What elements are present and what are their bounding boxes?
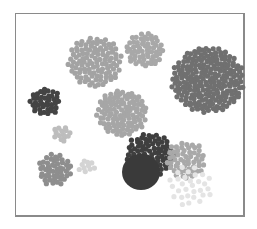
dot bbox=[79, 39, 84, 44]
dot bbox=[165, 160, 170, 165]
dot bbox=[195, 106, 200, 111]
dot bbox=[115, 88, 120, 93]
dot bbox=[93, 84, 98, 89]
dot bbox=[170, 77, 175, 82]
dot bbox=[127, 145, 132, 150]
cluster-center-mid bbox=[94, 88, 148, 137]
dot bbox=[201, 110, 206, 115]
cluster-tiny-pale bbox=[77, 159, 97, 175]
dot bbox=[179, 141, 184, 146]
dot bbox=[100, 82, 105, 87]
dot bbox=[176, 188, 181, 193]
dot bbox=[49, 157, 54, 162]
dot bbox=[159, 43, 164, 48]
dot bbox=[106, 116, 111, 121]
dot bbox=[190, 107, 195, 112]
dot bbox=[111, 41, 116, 46]
dot bbox=[160, 48, 165, 53]
dot bbox=[69, 69, 74, 74]
dot bbox=[61, 138, 66, 143]
dot bbox=[74, 41, 79, 46]
dot bbox=[190, 183, 195, 188]
dot bbox=[179, 97, 184, 102]
dot bbox=[220, 107, 225, 112]
dot bbox=[196, 179, 201, 184]
dot bbox=[197, 199, 202, 204]
dot bbox=[226, 62, 231, 67]
dot bbox=[143, 63, 148, 68]
dot bbox=[207, 192, 212, 197]
dot bbox=[206, 108, 211, 113]
dot bbox=[196, 152, 201, 157]
dot bbox=[171, 194, 176, 199]
dot bbox=[108, 92, 113, 97]
dot bbox=[172, 71, 177, 76]
dot bbox=[53, 110, 58, 115]
dot bbox=[58, 181, 63, 186]
dot bbox=[172, 65, 177, 70]
dot bbox=[129, 91, 134, 96]
dot bbox=[193, 172, 198, 177]
dot bbox=[38, 111, 43, 116]
dot bbox=[223, 50, 228, 55]
dot bbox=[83, 79, 88, 84]
dot bbox=[38, 166, 43, 171]
dot bbox=[200, 192, 205, 197]
dot bbox=[146, 31, 151, 36]
dot bbox=[167, 177, 172, 182]
dot bbox=[88, 36, 93, 41]
dot bbox=[94, 113, 99, 118]
dot bbox=[153, 35, 158, 40]
dot bbox=[120, 90, 125, 95]
dot bbox=[207, 176, 212, 181]
dot bbox=[39, 174, 44, 179]
dot bbox=[102, 93, 107, 98]
dot bbox=[39, 95, 44, 100]
dot-cluster-diagram bbox=[0, 0, 257, 229]
dot bbox=[187, 150, 192, 155]
dot bbox=[32, 108, 37, 113]
dot bbox=[97, 57, 102, 62]
dot bbox=[238, 79, 243, 84]
dot bbox=[205, 186, 210, 191]
dot bbox=[125, 44, 130, 49]
cluster-right-large bbox=[169, 46, 245, 115]
dot bbox=[200, 172, 205, 177]
dot bbox=[174, 94, 179, 99]
dot bbox=[188, 178, 193, 183]
dot bbox=[45, 111, 50, 116]
dot bbox=[113, 46, 118, 51]
dot bbox=[106, 42, 111, 47]
dot bbox=[236, 94, 241, 99]
dot bbox=[42, 87, 47, 92]
dot bbox=[201, 162, 206, 167]
dot bbox=[197, 143, 202, 148]
dot bbox=[130, 99, 135, 104]
dot bbox=[175, 170, 180, 175]
dot bbox=[203, 46, 208, 51]
dot bbox=[143, 105, 148, 110]
dot bbox=[183, 187, 188, 192]
dot bbox=[169, 144, 174, 149]
dot bbox=[44, 155, 49, 160]
dot bbox=[183, 102, 188, 107]
dot bbox=[231, 56, 236, 61]
dot bbox=[231, 61, 236, 66]
dot bbox=[83, 169, 88, 174]
dot bbox=[98, 77, 103, 82]
dot bbox=[92, 166, 97, 171]
dot bbox=[197, 148, 202, 153]
dot bbox=[145, 41, 150, 46]
dot bbox=[67, 130, 72, 135]
dot bbox=[231, 99, 236, 104]
dot bbox=[167, 150, 172, 155]
dot bbox=[82, 159, 87, 164]
dot bbox=[174, 163, 179, 168]
dot bbox=[196, 46, 201, 51]
dot bbox=[227, 54, 232, 59]
dot bbox=[53, 105, 58, 110]
dot bbox=[118, 54, 123, 59]
dot bbox=[162, 135, 167, 140]
dot bbox=[168, 165, 173, 170]
dot bbox=[213, 108, 218, 113]
